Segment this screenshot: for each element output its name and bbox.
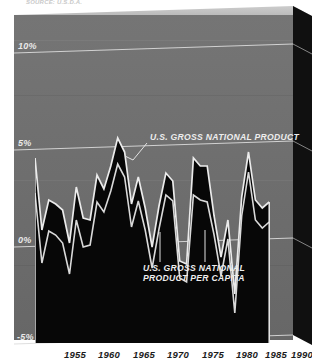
annotation-percapita-line-a: U.S. GROSS NATIONAL bbox=[143, 263, 245, 273]
y-tick-label-10: 10% bbox=[18, 41, 37, 51]
x-tick-label-1965: 1965 bbox=[133, 349, 155, 360]
gnp-chart: 10% 5% 0% -5% U.S. GROSS NATIONAL PRODUC… bbox=[0, 0, 312, 362]
y-tick-label-5: 5% bbox=[18, 138, 31, 148]
block-right-face bbox=[293, 6, 312, 345]
x-tick-label-1955: 1955 bbox=[64, 349, 86, 360]
y-tick-label-neg5: -5% bbox=[17, 332, 34, 342]
x-tick-label-1975: 1975 bbox=[202, 349, 224, 360]
x-tick-label-1980: 1980 bbox=[236, 349, 258, 360]
chart-canvas: 10% 5% 0% -5% U.S. GROSS NATIONAL PRODUC… bbox=[0, 0, 312, 362]
x-axis-labels: 1955 1960 1965 1970 1975 1980 1985 1990 bbox=[64, 349, 312, 360]
source-caption: SOURCE: U.S.D.A. bbox=[26, 0, 82, 5]
annotation-percapita-line-b: PRODUCT PER CAPITA bbox=[143, 273, 245, 283]
x-tick-label-1960: 1960 bbox=[98, 349, 120, 360]
x-tick-label-1990: 1990 bbox=[291, 349, 312, 360]
annotation-gnp-label: U.S. GROSS NATIONAL PRODUCT bbox=[150, 132, 300, 142]
x-tick-label-1970: 1970 bbox=[167, 349, 189, 360]
y-tick-label-0: 0% bbox=[18, 235, 31, 245]
x-tick-label-1985: 1985 bbox=[265, 349, 287, 360]
